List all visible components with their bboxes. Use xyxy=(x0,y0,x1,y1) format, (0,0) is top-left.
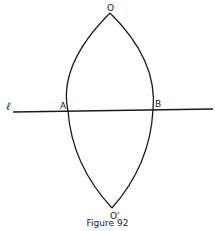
lens-diagram: O O' A B ℓ xyxy=(0,0,215,231)
label-O: O xyxy=(107,3,114,13)
label-A: A xyxy=(60,101,67,111)
label-B: B xyxy=(155,99,161,109)
line-l xyxy=(13,109,213,112)
label-line-l: ℓ xyxy=(6,100,11,113)
figure-caption: Figure 92 xyxy=(0,218,215,228)
